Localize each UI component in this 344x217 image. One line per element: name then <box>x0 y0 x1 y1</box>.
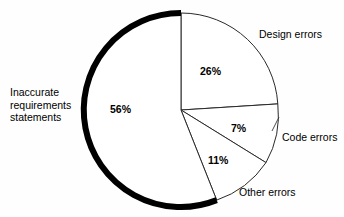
slice-label-inaccurate-line-2: requirements <box>10 99 71 112</box>
slice-label-inaccurate-requirements: Inaccurate requirements statements <box>10 86 71 124</box>
slice-value-design-errors: 26% <box>200 66 221 77</box>
slice-label-design-errors: Design errors <box>259 28 322 41</box>
slice-label-inaccurate-line-3: statements <box>10 111 71 124</box>
slice-value-inaccurate-requirements: 56% <box>110 104 131 115</box>
slice-value-code-errors: 7% <box>231 123 246 134</box>
pie-chart-figure: 26% 7% 11% 56% Design errors Code errors… <box>0 0 344 217</box>
slice-label-code-errors: Code errors <box>282 131 337 144</box>
slice-label-other-errors: Other errors <box>239 186 296 199</box>
slice-value-other-errors: 11% <box>208 155 228 166</box>
slice-label-inaccurate-line-1: Inaccurate <box>10 86 71 99</box>
